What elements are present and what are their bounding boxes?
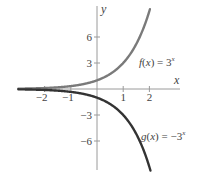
y-axis-label: y xyxy=(100,2,107,16)
curve-f xyxy=(18,9,150,88)
label-f: f(x) = 3x xyxy=(139,55,176,69)
y-tick-label: 6 xyxy=(87,31,93,43)
y-tick-label: −6 xyxy=(80,135,92,147)
x-axis-label: x xyxy=(173,73,180,87)
x-tick-label: 1 xyxy=(120,91,126,103)
function-graph: −2−11263−3−6xyf(x) = 3xg(x) = −3x xyxy=(0,0,203,178)
x-tick-label: −2 xyxy=(36,91,48,103)
x-tick-label: −1 xyxy=(62,91,74,103)
y-tick-label: −3 xyxy=(80,109,92,121)
label-g: g(x) = −3x xyxy=(141,129,186,143)
x-tick-label: 2 xyxy=(147,91,153,103)
y-tick-label: 3 xyxy=(87,57,93,69)
